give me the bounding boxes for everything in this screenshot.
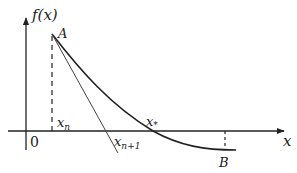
point-a-label: A (57, 26, 67, 41)
tangent-line (52, 34, 118, 153)
newton-method-diagram: f(x) x 0 A B xn xn+1 x* (0, 0, 297, 173)
function-curve (52, 34, 236, 150)
x-axis-label: x (283, 132, 292, 150)
x-n-label: xn (57, 115, 70, 132)
x-n-plus-1-label: xn+1 (114, 134, 140, 151)
point-b-label: B (218, 155, 229, 170)
x-star-label: x* (146, 114, 158, 130)
origin-label: 0 (30, 134, 39, 150)
y-axis-label: f(x) (31, 6, 58, 24)
